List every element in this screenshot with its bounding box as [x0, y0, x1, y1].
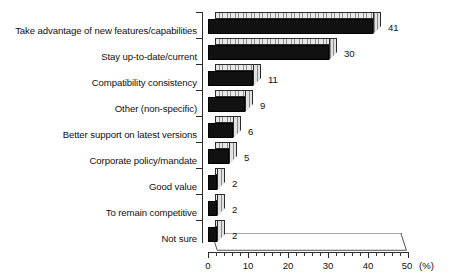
- x-axis-minor-tick: [264, 252, 265, 256]
- x-axis-minor-tick: [232, 252, 233, 256]
- x-axis-major-tick: [288, 252, 289, 258]
- x-axis-tick-label: 20: [283, 260, 294, 271]
- x-axis-minor-tick: [336, 252, 337, 256]
- x-axis-minor-tick: [392, 252, 393, 256]
- x-axis-minor-tick: [296, 252, 297, 256]
- x-axis-minor-tick: [376, 252, 377, 256]
- y-axis-tick: [196, 12, 202, 13]
- x-axis-unit-label: (%): [419, 260, 434, 271]
- x-axis-minor-tick: [320, 252, 321, 256]
- bar-value-label: 11: [268, 74, 278, 85]
- bar-side-face: [233, 116, 241, 138]
- bar-side-face: [329, 38, 337, 60]
- x-axis-minor-tick: [240, 252, 241, 256]
- x-axis-minor-tick: [360, 252, 361, 256]
- bar-top-face: [215, 38, 336, 45]
- bar-front-face: [208, 149, 229, 164]
- bar-value-label: 2: [232, 178, 237, 189]
- y-axis-tick: [196, 116, 202, 117]
- y-axis-tick: [196, 90, 202, 91]
- bar-value-label: 2: [232, 204, 237, 215]
- x-axis-minor-tick: [224, 252, 225, 256]
- x-axis-minor-tick: [272, 252, 273, 256]
- bar-front-face: [208, 201, 217, 216]
- plot-area: 41 30 11 9 6: [0, 0, 457, 278]
- bar-front-face: [208, 19, 373, 34]
- bar-front-face: [208, 97, 245, 112]
- y-axis-tick: [196, 220, 202, 221]
- x-axis-major-tick: [248, 252, 249, 258]
- bar-front-face: [208, 175, 217, 190]
- x-axis-tick-label: 30: [323, 260, 334, 271]
- bar-value-label: 5: [244, 152, 249, 163]
- y-axis-line: [202, 12, 203, 243]
- bar-side-face: [245, 90, 253, 112]
- bar-value-label: 41: [388, 22, 399, 33]
- y-axis-tick: [196, 64, 202, 65]
- x-axis-minor-tick: [400, 252, 401, 256]
- x-axis-minor-tick: [384, 252, 385, 256]
- x-axis-major-tick: [328, 252, 329, 258]
- x-axis-minor-tick: [304, 252, 305, 256]
- bar-side-face: [373, 12, 381, 34]
- x-axis-tick-label: 50: [402, 260, 413, 271]
- x-axis-tick-label: 40: [363, 260, 374, 271]
- x-axis-minor-tick: [352, 252, 353, 256]
- bar-value-label: 6: [248, 126, 253, 137]
- bar-front-face: [208, 227, 217, 242]
- x-axis-major-tick: [368, 252, 369, 258]
- x-axis-minor-tick: [312, 252, 313, 256]
- bar-front-face: [208, 71, 253, 86]
- bar-side-face: [217, 168, 225, 190]
- y-axis-tick: [196, 142, 202, 143]
- x-axis-minor-tick: [216, 252, 217, 256]
- bar-value-label: 9: [260, 100, 265, 111]
- bar-value-label: 30: [344, 48, 355, 59]
- y-axis-tick: [196, 168, 202, 169]
- x-axis-major-tick: [208, 252, 209, 258]
- x-axis-major-tick: [408, 252, 409, 258]
- x-axis-minor-tick: [256, 252, 257, 256]
- bar-value-label: 2: [232, 230, 237, 241]
- y-axis-tick: [196, 38, 202, 39]
- bar-top-face: [215, 12, 380, 19]
- bar-chart: Take advantage of new features/capabilit…: [0, 0, 457, 278]
- bar-side-face: [217, 194, 225, 216]
- bar-front-face: [208, 45, 329, 60]
- bar-side-face: [229, 142, 237, 164]
- x-axis-line: [208, 252, 409, 253]
- y-axis-tick: [196, 194, 202, 195]
- x-axis-minor-tick: [280, 252, 281, 256]
- bar-front-face: [208, 123, 233, 138]
- x-axis-tick-label: 0: [205, 260, 210, 271]
- x-axis-minor-tick: [344, 252, 345, 256]
- x-axis-tick-label: 10: [243, 260, 254, 271]
- bar-side-face: [253, 64, 261, 86]
